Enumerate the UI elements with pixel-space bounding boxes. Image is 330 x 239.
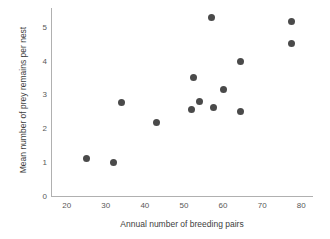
data-point [208,14,215,21]
x-tick-label: 30 [91,201,121,210]
data-point [288,18,295,25]
data-point [288,40,295,47]
data-point [110,159,117,166]
data-point [83,155,90,162]
x-tick-label: 80 [286,201,316,210]
scatter-plot-figure: 012345 20304050607080 Annual number of b… [0,0,330,239]
x-tick-label: 20 [52,201,82,210]
y-axis-title: Mean number of prey remains per nest [18,0,28,200]
plot-area [51,8,313,196]
x-tick-label: 60 [208,201,238,210]
data-point [196,98,203,105]
x-tick-label: 70 [247,201,277,210]
x-tick-label: 40 [130,201,160,210]
x-axis-title: Annual number of breeding pairs [51,219,313,229]
x-tick-label: 50 [169,201,199,210]
data-point [153,119,160,126]
